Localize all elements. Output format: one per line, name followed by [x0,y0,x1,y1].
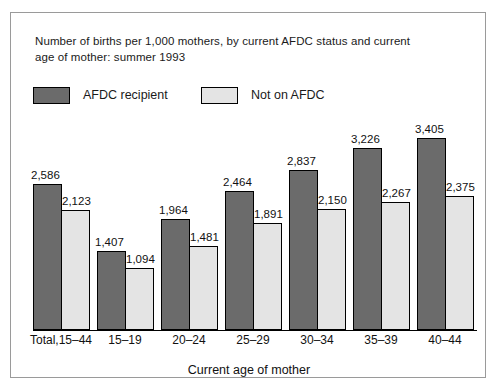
chart-title: Number of births per 1,000 mothers, by c… [35,33,455,65]
bar-value-label: 2,375 [446,181,475,194]
bar-afdc-recipient[interactable] [353,148,382,330]
chart-legend: AFDC recipient Not on AFDC [23,84,463,110]
bar-not-on-afdc[interactable] [445,196,474,330]
bar-group: 1,9641,481 [161,121,220,330]
chart-plot-area: 2,5862,1231,4071,0941,9641,4812,4641,891… [23,121,475,331]
bar-value-label: 1,407 [95,236,124,249]
x-axis-tick-labels: Total,15–4415–1920–2425–2930–3435–3940–4… [23,333,475,353]
bar-not-on-afdc[interactable] [189,246,218,330]
bar-afdc-recipient[interactable] [289,170,318,330]
bar-value-label: 1,094 [126,253,155,266]
x-axis-tick-label: 40–44 [400,333,490,347]
x-axis-title: Current age of mother [23,363,475,377]
legend-item-not-on-afdc: Not on AFDC [201,84,325,106]
bar-afdc-recipient[interactable] [417,138,446,330]
legend-label-not-on-afdc: Not on AFDC [251,88,325,102]
bar-value-label: 1,891 [254,208,283,221]
bar-group: 2,5862,123 [33,121,92,330]
bar-value-label: 3,405 [415,123,444,136]
bar-group: 2,4641,891 [225,121,284,330]
bar-value-label: 2,150 [318,194,347,207]
chart-title-line-1: Number of births per 1,000 mothers, by c… [35,33,455,49]
bar-not-on-afdc[interactable] [61,210,90,330]
bar-value-label: 2,837 [287,155,316,168]
bar-value-label: 3,226 [351,133,380,146]
bar-value-label: 1,481 [190,231,219,244]
x-axis-baseline [33,330,477,331]
legend-label-afdc-recipient: AFDC recipient [83,88,168,102]
bar-not-on-afdc[interactable] [317,209,346,330]
bar-value-label: 1,964 [159,204,188,217]
bar-group: 1,4071,094 [97,121,156,330]
bar-afdc-recipient[interactable] [225,191,254,330]
bar-group: 2,8372,150 [289,121,348,330]
bar-value-label: 2,267 [382,187,411,200]
legend-item-afdc-recipient: AFDC recipient [33,84,168,106]
bar-afdc-recipient[interactable] [97,251,126,330]
chart-title-line-2: age of mother: summer 1993 [35,49,455,65]
legend-swatch-dark-icon [33,87,70,104]
bar-group: 3,2262,267 [353,121,412,330]
bar-not-on-afdc[interactable] [253,223,282,330]
chart-figure-frame: Number of births per 1,000 mothers, by c… [10,12,486,378]
bar-not-on-afdc[interactable] [381,202,410,330]
bar-value-label: 2,586 [31,169,60,182]
bar-afdc-recipient[interactable] [33,184,62,330]
bar-afdc-recipient[interactable] [161,219,190,330]
bar-group: 3,4052,375 [417,121,476,330]
bar-not-on-afdc[interactable] [125,268,154,330]
bar-value-label: 2,123 [62,195,91,208]
bar-value-label: 2,464 [223,176,252,189]
legend-swatch-light-icon [201,87,238,104]
